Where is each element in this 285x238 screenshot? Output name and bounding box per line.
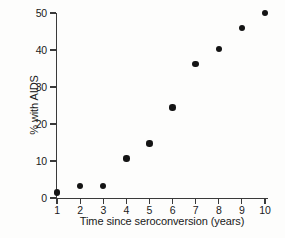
data-point — [100, 183, 106, 189]
y-tick-label-10: 10 — [36, 156, 47, 167]
y-tick-label-40: 40 — [36, 45, 47, 56]
y-tick-40: 40 — [50, 49, 56, 50]
data-point — [239, 25, 245, 31]
x-tick-label-7: 7 — [193, 205, 199, 216]
data-point — [192, 61, 198, 67]
y-axis-line — [56, 13, 57, 199]
y-tick-10: 10 — [50, 160, 56, 161]
plot-area: 01020304050 12345678910 % with AIDS Time… — [0, 0, 285, 238]
y-axis-title: % with AIDS — [28, 75, 40, 134]
x-tick-8: 8 — [218, 198, 219, 204]
y-tick-30: 30 — [50, 86, 56, 87]
x-tick-label-2: 2 — [77, 205, 83, 216]
x-tick-1: 1 — [56, 198, 57, 204]
x-tick-label-1: 1 — [54, 205, 60, 216]
x-tick-9: 9 — [241, 198, 242, 204]
x-tick-6: 6 — [172, 198, 173, 204]
data-point — [169, 104, 175, 110]
x-tick-label-8: 8 — [216, 205, 222, 216]
y-tick-0: 0 — [50, 197, 56, 198]
x-tick-7: 7 — [195, 198, 196, 204]
y-tick-20: 20 — [50, 123, 56, 124]
x-tick-label-10: 10 — [259, 205, 270, 216]
y-tick-50: 50 — [50, 12, 56, 13]
x-tick-4: 4 — [126, 198, 127, 204]
x-tick-3: 3 — [103, 198, 104, 204]
y-tick-label-0: 0 — [41, 193, 47, 204]
data-point — [146, 140, 152, 146]
x-tick-label-5: 5 — [147, 205, 153, 216]
data-point — [262, 10, 268, 16]
x-axis-title: Time since seroconversion (years) — [56, 215, 268, 227]
x-tick-2: 2 — [80, 198, 81, 204]
x-axis-line — [56, 198, 268, 199]
x-tick-5: 5 — [149, 198, 150, 204]
x-tick-label-4: 4 — [123, 205, 129, 216]
x-tick-label-3: 3 — [100, 205, 106, 216]
data-point — [54, 189, 60, 195]
x-tick-label-6: 6 — [170, 205, 176, 216]
x-tick-label-9: 9 — [239, 205, 245, 216]
data-point — [123, 155, 129, 161]
data-point — [77, 183, 83, 189]
y-tick-label-50: 50 — [36, 8, 47, 19]
data-point — [216, 46, 222, 52]
x-tick-10: 10 — [264, 198, 265, 204]
scatter-chart-figure: 01020304050 12345678910 % with AIDS Time… — [0, 0, 285, 238]
